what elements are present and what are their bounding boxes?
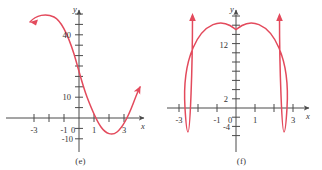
x-tick-label-e-3: 1 [92,125,96,135]
y-axis-label-f: y [229,4,234,14]
x-tick-label-f-0: -3 [175,115,182,125]
y-tick-label-f-12: 12 [220,40,229,50]
graph-e-svg: -3 -1 0 1 3 40 10 -10 x y [0,0,161,170]
x-tick-label-e-0: -3 [30,125,37,135]
x-tick-label-f-3: 1 [253,115,257,125]
figure-container: -3 -1 0 1 3 40 10 -10 x y (e) [0,0,322,170]
graph-f-svg: -3 -1 0 1 3 12 2 -4 x y [161,0,322,170]
y-axis-label-e: y [72,4,77,14]
panel-e: -3 -1 0 1 3 40 10 -10 x y (e) [0,0,161,170]
panel-caption-e: (e) [0,156,161,166]
x-axis-label-e: x [140,121,145,131]
x-tick-label-e-4: 3 [122,125,126,135]
panel-caption-f: (f) [161,156,322,166]
y-tick-label-f-neg4: -4 [223,122,231,132]
y-tick-label-e-neg10: -10 [62,134,73,144]
x-tick-label-f-4: 3 [291,115,295,125]
x-axis-label-f: x [305,111,310,121]
curve-f-left-arrowhead [189,13,196,21]
panel-f: -3 -1 0 1 3 12 2 -4 x y (f) [161,0,322,170]
y-tick-label-e-10: 10 [63,92,72,102]
x-tick-label-f-1: -1 [213,115,220,125]
curve-f-right-arrowhead [276,13,283,21]
y-tick-label-f-2: 2 [224,94,228,104]
y-tick-label-e-40: 40 [63,30,72,40]
